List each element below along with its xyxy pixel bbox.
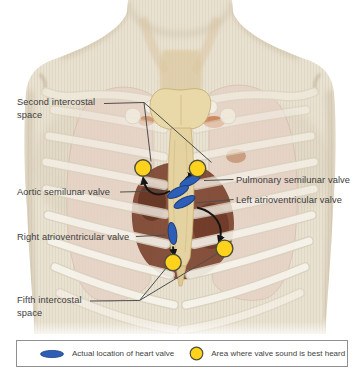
legend: Actual location of heart valve Area wher… xyxy=(16,340,348,367)
legend-item-valve-location: Actual location of heart valve xyxy=(39,349,174,359)
sound-area-right-av xyxy=(165,254,181,270)
label-right-atrioventricular-valve: Right atrioventricular valve xyxy=(17,231,129,244)
torso-illustration xyxy=(0,0,360,340)
label-left-atrioventricular-valve: Left atrioventricular valve xyxy=(236,194,342,207)
label-second-intercostal-space: Second intercostal space xyxy=(17,96,107,121)
label-pulmonary-semilunar-valve: Pulmonary semilunar valve xyxy=(236,174,350,187)
sound-area-marker-icon xyxy=(189,346,204,361)
legend-item-sound-area: Area where valve sound is best heard xyxy=(189,346,345,361)
valve-location-marker-icon xyxy=(39,349,65,359)
arrow-right-av-to-sound-area xyxy=(173,247,174,254)
legend-valve-location-label: Actual location of heart valve xyxy=(72,349,174,358)
legend-sound-area-label: Area where valve sound is best heard xyxy=(211,349,345,358)
label-aortic-semilunar-valve: Aortic semilunar valve xyxy=(17,186,110,199)
torso-body xyxy=(0,0,360,340)
sound-area-aortic xyxy=(135,160,151,176)
sound-area-left-av xyxy=(216,240,233,257)
anatomy-figure: Second intercostal space Aortic semiluna… xyxy=(0,0,360,373)
label-fifth-intercostal-space: Fifth intercostal space xyxy=(17,294,97,319)
sound-area-pulmonary xyxy=(189,160,205,176)
